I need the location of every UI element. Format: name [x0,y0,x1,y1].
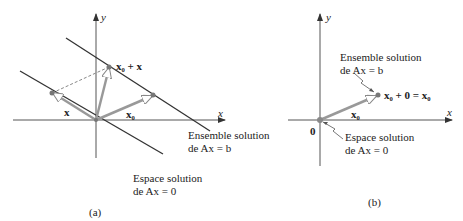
solution-set-label-line2: de Ax = b [340,64,383,76]
null-space-label-line2: de Ax = 0 [133,185,176,197]
solution-set-label-line2: de Ax = b [188,142,231,154]
solution-set-line [66,38,210,131]
null-space-line [20,71,163,154]
vector-x0 [96,96,152,120]
x-axis-label: x [447,106,452,118]
null-space-label-line1: Espace solution [133,172,202,184]
point-label: x₀ + 0 = x₀ [384,89,431,101]
dashed-parallel [52,67,109,93]
caption-b: (b) [368,196,381,208]
label-x: x [64,106,70,118]
point-x0 [376,93,381,98]
y-axis-label: y [101,11,106,23]
vector-x [53,93,96,120]
solution-set-label-line1: Ensemble solution [340,51,422,63]
null-space-label-line1: Espace solution [345,131,414,143]
origin-point [317,117,323,123]
vector-x0 [320,96,376,120]
point-x0-plus-x [107,65,112,70]
origin-label: 0 [310,125,316,137]
x-axis-label: x [218,107,223,119]
vector-x0-plus-x [96,68,109,120]
label-x0: x₀ [126,108,135,120]
null-space-label-line2: de Ax = 0 [345,144,388,156]
label-x0: x₀ [351,108,360,120]
label-x0-plus-x: x₀ + x [116,60,142,72]
y-axis-label: y [326,11,331,23]
origin-point [94,118,98,122]
caption-a: (a) [89,206,101,218]
solution-set-label-line1: Ensemble solution [188,129,270,141]
point-x0 [151,93,156,98]
point-x [50,91,55,96]
